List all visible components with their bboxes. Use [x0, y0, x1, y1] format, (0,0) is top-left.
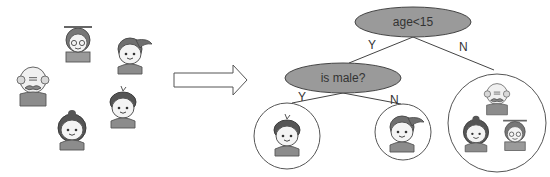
child-yes-label: Y [298, 90, 306, 104]
root-no-label: N [459, 40, 468, 54]
leaf-adults [448, 74, 546, 172]
root-node: age<15 [355, 7, 471, 37]
root-node-label: age<15 [393, 15, 434, 29]
input-people-group [17, 26, 152, 150]
grandpa-icon [484, 84, 510, 115]
root-yes-label: Y [368, 38, 376, 52]
edge-root-no [413, 37, 494, 70]
girl-ponytail-icon [118, 38, 152, 74]
grandpa-icon [17, 67, 49, 106]
edge-root-yes [349, 37, 413, 63]
leaf-male-young [254, 103, 320, 169]
decision-tree-diagram: Y N Y N age<15 is male? [0, 0, 550, 177]
boy-icon [110, 86, 136, 128]
child-node: is male? [285, 63, 401, 93]
child-node-label: is male? [321, 71, 366, 85]
leaf-female-young [375, 104, 431, 160]
grandma-icon [64, 26, 92, 62]
woman-icon [58, 110, 86, 150]
transform-arrow-icon [174, 65, 247, 95]
